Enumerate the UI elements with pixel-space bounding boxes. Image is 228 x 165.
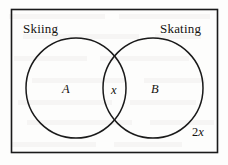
region-label-outside-2x: 2x [192, 126, 204, 139]
skiing-set-label: Skiing [23, 22, 58, 35]
region-label-intersection-x: x [111, 84, 117, 97]
region-label-b: B [151, 83, 159, 96]
venn-diagram-figure: Skiing Skating A x B 2x [0, 0, 228, 165]
outside-label-variable: x [198, 125, 204, 139]
skating-set-label: Skating [160, 22, 201, 35]
region-label-a: A [62, 83, 70, 96]
